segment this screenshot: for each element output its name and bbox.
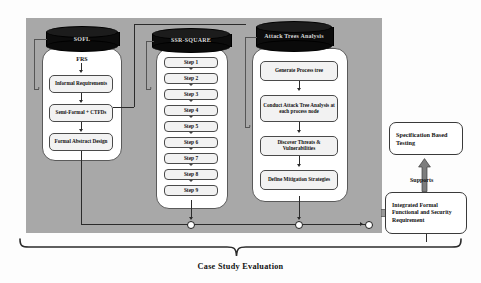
arrow-middle-lane-to-bus — [189, 217, 193, 220]
block-arrow-up-icon — [418, 158, 431, 192]
box-step-8: Step 8 — [164, 169, 218, 180]
box-step-6: Step 6 — [164, 137, 218, 148]
database-cylinder-sofl: SOFL — [46, 26, 118, 52]
box-step-4: Step 4 — [164, 105, 218, 116]
arrow-semiformal-down — [79, 129, 83, 132]
feed-line-sofl-stub — [34, 89, 39, 90]
junction-circle-right — [295, 221, 303, 229]
arrow-generate-down — [297, 88, 301, 91]
arrow-step-4-down — [189, 116, 193, 118]
box-integrated-formal-requirement: Integrated Formal Functional and Securit… — [385, 192, 467, 234]
diagram-canvas: SOFL SSR-SQUARE Attack Trees Analysis FR… — [0, 0, 481, 283]
rail-sofl-to-top-vertical — [134, 24, 135, 107]
box-informal-requirements: Informal Requirements — [49, 75, 113, 93]
box-define-mitigation-strategies: Define Mitigation Strategies — [260, 170, 338, 190]
feed-line-ssr-stub — [146, 89, 151, 90]
arrow-step-5-down — [189, 132, 193, 134]
supports-label: Supports — [410, 177, 433, 183]
box-step-9: Step 9 — [164, 185, 218, 196]
arrow-step-6-down — [189, 148, 193, 150]
database-label-attack-trees: Attack Trees Analysis — [256, 21, 332, 52]
arrow-frs-down — [79, 70, 83, 73]
arrow-ata-into-lane — [249, 125, 251, 127]
arrow-right-lane-to-bus — [297, 217, 301, 220]
box-step-7: Step 7 — [164, 153, 218, 164]
box-semi-formal-ctfds: Semi-Formal + CTFDs — [49, 104, 113, 122]
box-step-5: Step 5 — [164, 121, 218, 132]
box-step-2: Step 2 — [164, 73, 218, 84]
bus-drop-from-right-lane — [299, 196, 300, 219]
arrow-ssr-into-lane — [150, 87, 152, 89]
arrow-step-1-down — [189, 68, 193, 70]
arrow-bus-to-output — [360, 222, 363, 226]
arrow-discover-down — [297, 164, 301, 167]
arrow-step-2-down — [189, 84, 193, 86]
database-label-sofl: SOFL — [46, 26, 118, 52]
arrow-informal-down — [79, 100, 83, 103]
arrow-sofl-into-lane — [38, 87, 40, 89]
diagram-caption: Case Study Evaluation — [0, 262, 481, 271]
bottom-bus-line — [81, 224, 369, 225]
frs-label: FRS — [62, 56, 102, 62]
feed-line-ssr-vertical — [146, 41, 147, 89]
bottom-curly-brace — [16, 237, 465, 259]
box-conduct-attack-tree-analysis: Conduct Attack Tree Analysis at each pro… — [260, 95, 338, 122]
box-discover-threats-vulnerabilities: Discover Threats & Vulnerabilities — [260, 136, 338, 156]
bus-drop-from-left-lane — [81, 151, 82, 224]
rail-semiformal-to-rail — [113, 107, 134, 108]
junction-circle-middle — [187, 221, 195, 229]
box-generate-process-tree: Generate Process tree — [260, 61, 338, 81]
database-cylinder-ssr-square: SSR-SQUARE — [152, 28, 230, 53]
feed-line-ata-vertical — [245, 37, 246, 127]
junction-circle-output — [365, 221, 373, 229]
arrow-step-7-down — [189, 164, 193, 166]
arrow-step-8-down — [189, 180, 193, 182]
arrow-conduct-down — [297, 130, 301, 133]
box-formal-abstract-design: Formal Abstract Design — [49, 133, 113, 151]
feed-line-sofl-vertical — [34, 39, 35, 89]
rail-top-horizontal — [134, 24, 246, 25]
database-cylinder-attack-trees: Attack Trees Analysis — [256, 21, 332, 52]
box-step-1: Step 1 — [164, 57, 218, 68]
arrow-step-3-down — [189, 100, 193, 102]
feed-line-ata-stub — [245, 127, 250, 128]
box-step-3: Step 3 — [164, 89, 218, 100]
database-label-ssr-square: SSR-SQUARE — [152, 28, 230, 53]
box-specification-based-testing: Specification Based Testing — [389, 122, 463, 155]
